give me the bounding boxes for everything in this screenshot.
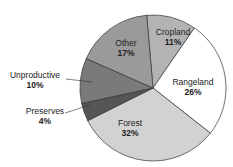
cropland-pct: 11% xyxy=(165,37,182,47)
preserves-pct: 4% xyxy=(39,116,52,126)
pie-chart: Cropland 11% Other 17% Rangeland 26% Unp… xyxy=(0,0,233,167)
unproductive-pct: 10% xyxy=(26,80,43,90)
cropland-label: Cropland xyxy=(156,27,191,37)
pie-slices xyxy=(80,15,226,161)
unproductive-label: Unproductive xyxy=(10,70,60,80)
forest-label: Forest xyxy=(118,118,143,128)
preserves-label: Preserves xyxy=(26,106,64,116)
forest-pct: 32% xyxy=(121,128,138,138)
other-pct: 17% xyxy=(117,48,134,58)
rangeland-label: Rangeland xyxy=(172,77,213,87)
other-label: Other xyxy=(115,38,136,48)
rangeland-pct: 26% xyxy=(184,87,201,97)
